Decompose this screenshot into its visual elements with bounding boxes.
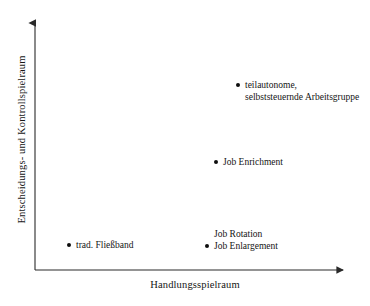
data-label-line: trad. Fließband	[76, 240, 134, 252]
x-axis-title: Handlungsspielraum	[150, 279, 240, 290]
x-axis-title-wrap: Handlungsspielraum	[0, 279, 370, 290]
chart-axes	[0, 0, 370, 306]
data-point-job-enrichment	[214, 160, 218, 164]
data-label-teilautonome-arbeitsgruppe: teilautonome, selbststeuernde Arbeitsgru…	[245, 80, 359, 103]
data-label-line: selbststeuernde Arbeitsgruppe	[245, 92, 359, 104]
data-label-trad-fliessband: trad. Fließband	[76, 240, 134, 252]
data-point-teilautonome-arbeitsgruppe	[236, 83, 240, 87]
data-point-trad-fliessband	[67, 243, 71, 247]
data-label-line: Job Enrichment	[223, 157, 283, 169]
data-label-line: Job Enlargement	[214, 241, 278, 253]
job-design-scatter-chart: Entscheidungs- und Kontrollspielraum Han…	[0, 0, 370, 306]
data-label-job-enrichment: Job Enrichment	[223, 157, 283, 169]
data-point-job-rotation-enlargement	[205, 244, 209, 248]
data-label-job-rotation-enlargement: Job Rotation Job Enlargement	[214, 229, 278, 252]
data-label-line: teilautonome,	[245, 80, 359, 92]
y-axis-title: Entscheidungs- und Kontrollspielraum	[16, 55, 27, 223]
data-label-line: Job Rotation	[214, 229, 278, 241]
